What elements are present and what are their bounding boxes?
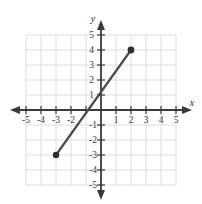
y-tick-label: 2: [89, 75, 94, 85]
x-tick-label: 4: [159, 115, 164, 125]
y-tick-label: -4: [89, 165, 97, 175]
endpoint-dot-upper: [128, 47, 135, 54]
y-tick-label: -1: [89, 120, 97, 130]
coordinate-graph-figure: -5 -4 -3 -2 1 2 3 4 5 5 4 3 2 1 -1 -2 -3…: [0, 0, 202, 204]
y-tick-label: 5: [89, 30, 94, 40]
x-tick-label: -4: [37, 115, 45, 125]
x-tick-label: -2: [67, 115, 75, 125]
y-tick-label: -5: [89, 180, 97, 190]
y-tick-label: -2: [89, 135, 97, 145]
coordinate-plane-svg: -5 -4 -3 -2 1 2 3 4 5 5 4 3 2 1 -1 -2 -3…: [0, 0, 202, 204]
y-tick-label: 3: [89, 60, 94, 70]
x-tick-label: 5: [174, 115, 179, 125]
x-tick-label: 3: [144, 115, 149, 125]
x-axis-name: x: [189, 97, 195, 108]
y-tick-label: -3: [89, 150, 97, 160]
endpoint-dot-lower: [53, 152, 59, 158]
x-tick-label: -5: [22, 115, 30, 125]
y-tick-label: 4: [89, 45, 94, 55]
x-tick-label: 1: [114, 115, 119, 125]
y-tick-label: 1: [89, 90, 94, 100]
x-tick-label: -3: [52, 115, 60, 125]
y-axis-name: y: [90, 13, 96, 24]
x-tick-label: 2: [129, 115, 134, 125]
